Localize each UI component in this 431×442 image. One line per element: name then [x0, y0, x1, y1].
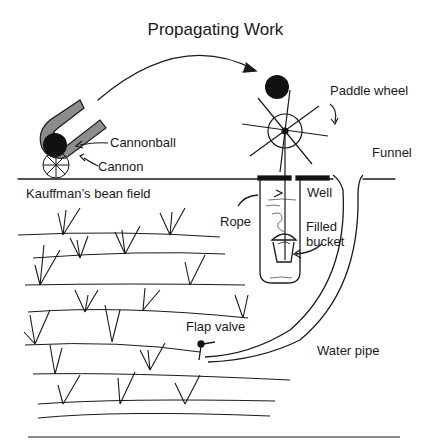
label-flap-valve: Flap valve: [186, 320, 245, 334]
cannonball: [43, 133, 67, 157]
label-funnel: Funnel: [372, 146, 412, 160]
label-bean-field: Kauffman’s bean field: [26, 187, 151, 201]
label-filled-bucket-line1: Filled: [306, 220, 337, 234]
trajectory-arrow: [98, 55, 255, 100]
bean-field: [18, 233, 400, 437]
diagram-canvas: [0, 0, 431, 442]
label-cannonball: Cannonball: [110, 136, 176, 150]
cannon-wheel: [43, 152, 69, 178]
label-well: Well: [307, 186, 332, 200]
label-water-pipe: Water pipe: [317, 344, 379, 358]
label-filled-bucket-line2: bucket: [306, 235, 344, 249]
label-cannon: Cannon: [98, 160, 144, 174]
label-rope: Rope: [220, 215, 251, 229]
label-paddle-wheel: Paddle wheel: [330, 84, 408, 98]
